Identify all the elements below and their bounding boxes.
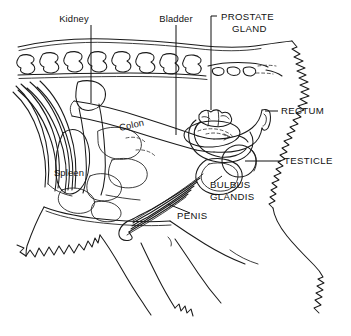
hind-leg-inner-contour [141, 243, 175, 308]
label-bulbus-glandis-line1: BULBUS [210, 179, 251, 190]
sacral-dash-2 [256, 73, 273, 74]
belly-to-groin [26, 207, 44, 256]
ribs-group [13, 81, 76, 196]
sacral-vertebrae-group [208, 63, 282, 76]
sacral-vertebra-2 [227, 67, 240, 75]
colon-continuation-upper [198, 136, 214, 139]
intestine-loop-2 [108, 158, 147, 188]
intestine-hidden-2 [136, 150, 156, 157]
rib-2-inner [18, 90, 56, 191]
spine-ventral-line [18, 73, 206, 76]
tail-fur-lower-tail [273, 208, 324, 313]
prostate-lobe-line-2 [218, 110, 219, 126]
hind-limb-group [17, 207, 258, 316]
penis-tip [119, 219, 133, 241]
hind-leg-rear-contour [175, 239, 221, 303]
viscera-divider [106, 195, 140, 200]
bladder-neck [239, 136, 248, 142]
prostate-group [199, 110, 232, 127]
groin-fur-left-tip [17, 245, 26, 256]
intestine-hidden-1 [126, 137, 146, 143]
duct-arrow [224, 134, 230, 140]
lower-body-to-leg [170, 221, 245, 264]
label-bladder: Bladder [159, 13, 192, 24]
prostate-outline [199, 110, 232, 127]
rectum-upper-wall [214, 110, 262, 139]
vertebra-6 [136, 53, 155, 73]
tail-fur-outline-group [269, 41, 324, 313]
vertebra-8 [183, 55, 201, 74]
colon-left-end [70, 101, 74, 116]
anatomy-illustration: Kidney Bladder PROSTATE GLAND RECTUM TES… [0, 0, 351, 336]
spine-ventral-line-2 [19, 77, 207, 80]
vertebra-2 [40, 53, 59, 73]
rear-thigh-inner [230, 250, 258, 264]
label-prostate-gland-line2: GLAND [232, 23, 267, 34]
label-prostate-gland-line1: PROSTATE [221, 11, 274, 22]
sacral-dash-1 [258, 65, 276, 66]
kidney-fascia-2 [99, 104, 105, 195]
rectum-lower-wall [214, 128, 262, 152]
anatomy-diagram: Kidney Bladder PROSTATE GLAND RECTUM TES… [0, 0, 351, 336]
hind-leg-inner-jag [175, 304, 193, 316]
rump-fur-jagged-top [292, 41, 309, 103]
label-rectum: RECTUM [281, 105, 324, 116]
back-top-outline [18, 39, 292, 47]
dorsal-outline-group [18, 39, 292, 51]
penis-group [119, 174, 203, 241]
label-spleen: Spleen [54, 167, 84, 178]
groin-fur-jagged [26, 235, 100, 257]
label-testicle: TESTICLE [284, 155, 333, 166]
label-penis: PENIS [177, 210, 208, 221]
sacral-vertebra-1 [212, 68, 224, 76]
vertebra-1 [17, 55, 35, 74]
lumbar-vertebrae-group [17, 52, 207, 80]
vertebra-5 [112, 52, 131, 72]
vertebra-3 [64, 52, 83, 72]
vas-deferens-dash [206, 133, 228, 137]
prostate-texture-2 [221, 116, 229, 119]
back-second-outline [19, 42, 261, 50]
anal-sphincter-detail [263, 114, 266, 126]
leader-lines-group [91, 16, 281, 213]
prostate-lobe-line-1 [208, 111, 209, 126]
sacrum-outline [208, 63, 268, 67]
stifle-mark [168, 237, 171, 246]
sacral-vertebra-3 [243, 67, 256, 76]
label-bulbus-glandis-line2: GLANDIS [210, 191, 255, 202]
label-kidney: Kidney [59, 13, 89, 24]
